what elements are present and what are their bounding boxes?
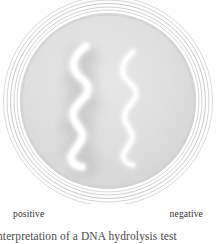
dna-hydrolysis-test-figure: positive negative nterpretation of a DNA… <box>0 0 216 244</box>
label-positive: positive <box>13 209 44 220</box>
figure-caption: nterpretation of a DNA hydrolysis test <box>0 230 216 244</box>
plate-labels-row: positive negative <box>0 204 216 224</box>
petri-dish-image <box>0 0 216 204</box>
label-negative: negative <box>170 209 203 220</box>
figure-caption-text: nterpretation of a DNA hydrolysis test <box>0 230 216 243</box>
